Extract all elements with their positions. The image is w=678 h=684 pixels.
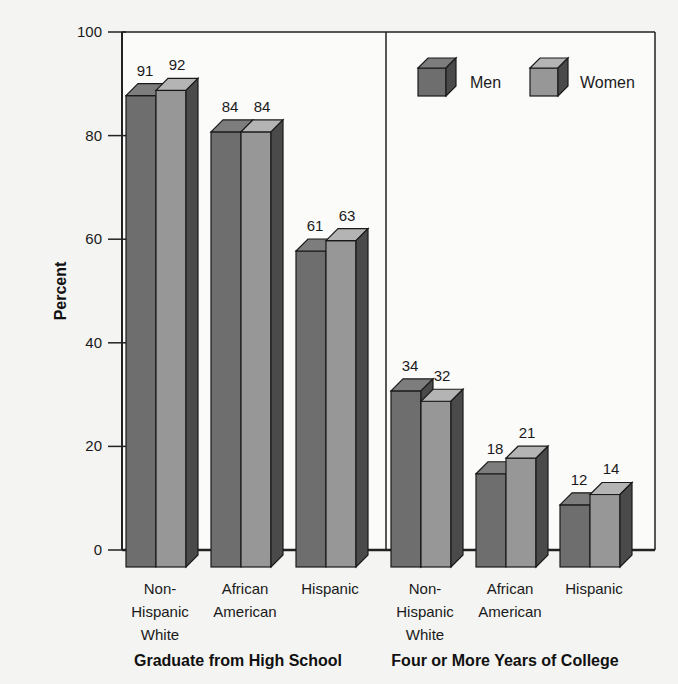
y-axis-title: Percent: [52, 261, 69, 320]
value-label-women: 63: [339, 207, 356, 224]
category-label: Hispanic: [396, 603, 454, 620]
value-label-women: 32: [434, 367, 451, 384]
category-label: Hispanic: [565, 580, 623, 597]
y-tick-label: 0: [94, 541, 102, 558]
bar-chart: 020406080100 919284846163343218211214 No…: [0, 0, 678, 684]
value-label-men: 12: [571, 471, 588, 488]
category-label: White: [406, 626, 444, 643]
y-tick-label: 20: [85, 437, 102, 454]
legend-label: Women: [580, 74, 635, 91]
value-label-women: 92: [169, 56, 186, 73]
legend-label: Men: [470, 74, 501, 91]
y-tick-label: 80: [85, 127, 102, 144]
category-labels: Non-HispanicWhiteAfricanAmericanHispanic…: [131, 580, 623, 643]
category-label: White: [141, 626, 179, 643]
value-label-women: 84: [254, 98, 271, 115]
y-tick-label: 40: [85, 334, 102, 351]
category-label: Hispanic: [131, 603, 189, 620]
category-label: Non-: [409, 580, 442, 597]
category-label: Non-: [144, 580, 177, 597]
value-label-men: 91: [137, 62, 154, 79]
category-label: American: [478, 603, 541, 620]
value-label-women: 14: [603, 460, 620, 477]
value-label-men: 18: [487, 440, 504, 457]
group-labels: Graduate from High SchoolFour or More Ye…: [134, 652, 619, 669]
cube-dark-icon: [418, 58, 456, 96]
category-label: American: [213, 603, 276, 620]
cube-light-icon: [530, 58, 568, 96]
group-label: Four or More Years of College: [391, 652, 618, 669]
value-label-men: 34: [402, 357, 419, 374]
y-tick-label: 100: [77, 23, 102, 40]
value-label-men: 61: [307, 217, 324, 234]
category-label: African: [222, 580, 269, 597]
category-label: Hispanic: [301, 580, 359, 597]
y-tick-label: 60: [85, 230, 102, 247]
group-label: Graduate from High School: [134, 652, 342, 669]
y-axis: 020406080100: [77, 23, 126, 558]
category-label: African: [487, 580, 534, 597]
value-label-women: 21: [519, 424, 536, 441]
value-label-men: 84: [222, 98, 239, 115]
